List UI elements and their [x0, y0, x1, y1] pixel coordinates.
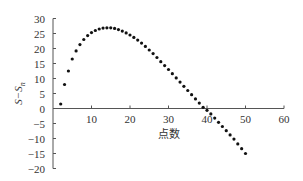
data-point	[71, 57, 74, 60]
data-point	[202, 106, 205, 109]
y-tick-label: 15	[34, 58, 46, 70]
data-point	[182, 85, 185, 88]
data-point	[98, 27, 101, 30]
y-tick-label: 20	[34, 43, 46, 55]
data-point	[240, 147, 243, 150]
y-tick-label: 5	[40, 88, 46, 100]
chart: 302520151050−5−10−15−20102030405060点数S−S…	[0, 0, 303, 181]
y-tick-label: 0	[40, 103, 46, 115]
x-tick-label: 50	[240, 113, 252, 125]
data-point	[163, 64, 166, 67]
y-tick-label: −15	[28, 148, 46, 160]
y-axis-label: S−Sn	[12, 82, 27, 104]
data-point	[86, 34, 89, 37]
data-point	[113, 27, 116, 30]
data-point	[144, 45, 147, 48]
data-point	[171, 72, 174, 75]
data-point	[159, 60, 162, 63]
data-point	[194, 97, 197, 100]
y-tick-label: −10	[28, 133, 46, 145]
data-point	[94, 29, 97, 32]
data-point	[152, 52, 155, 55]
data-point	[128, 33, 131, 36]
data-point	[109, 26, 112, 29]
data-point	[75, 49, 78, 52]
data-point	[205, 109, 208, 112]
data-point	[175, 76, 178, 79]
data-point	[121, 30, 124, 33]
data-point	[63, 83, 66, 86]
data-point	[132, 36, 135, 39]
data-point	[221, 125, 224, 128]
y-tick-label: 25	[34, 28, 46, 40]
data-point	[198, 102, 201, 105]
data-point	[225, 129, 228, 132]
y-tick-label: −20	[28, 163, 46, 175]
x-tick-label: 30	[163, 113, 175, 125]
data-point	[244, 152, 247, 155]
data-point	[209, 112, 212, 115]
data-point	[140, 42, 143, 45]
data-point	[101, 27, 104, 30]
data-point	[229, 133, 232, 136]
data-point	[117, 28, 120, 31]
y-tick-label: −5	[33, 118, 45, 130]
data-point	[167, 68, 170, 71]
y-tick-label: 30	[34, 13, 46, 25]
data-point	[67, 69, 70, 72]
data-point	[236, 142, 239, 145]
data-point	[213, 117, 216, 120]
data-point	[125, 31, 128, 34]
y-tick-label: 10	[34, 73, 46, 85]
x-axis-label: 点数	[158, 128, 180, 141]
data-point	[105, 26, 108, 29]
data-point	[148, 48, 151, 51]
data-point	[178, 81, 181, 84]
x-tick-label: 60	[279, 113, 291, 125]
x-tick-label: 10	[86, 113, 98, 125]
data-point	[136, 39, 139, 42]
data-point	[82, 38, 85, 41]
data-point	[59, 102, 62, 105]
data-point	[90, 31, 93, 34]
data-point	[78, 43, 81, 46]
data-point	[186, 89, 189, 92]
data-point	[232, 138, 235, 141]
data-point	[217, 121, 220, 124]
x-tick-label: 20	[125, 113, 137, 125]
data-point	[190, 93, 193, 96]
data-point	[155, 56, 158, 59]
